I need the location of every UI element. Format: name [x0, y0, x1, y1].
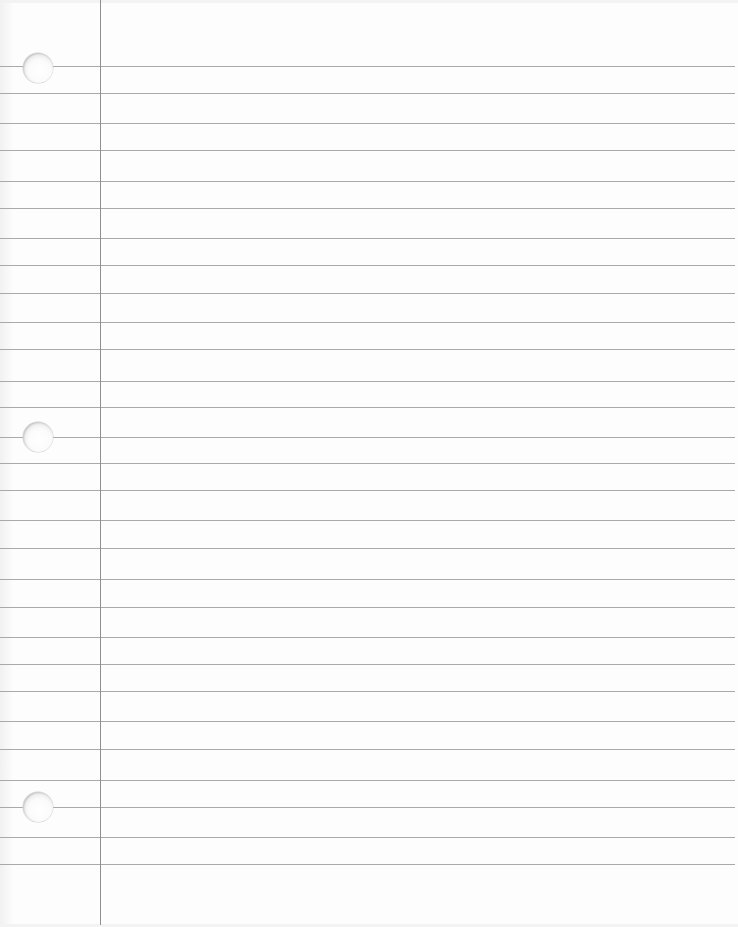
ruled-line: [0, 381, 735, 382]
punch-hole: [23, 792, 53, 822]
punch-hole: [23, 422, 53, 452]
ruled-line: [0, 238, 735, 239]
ruled-line: [0, 691, 735, 692]
ruled-line: [0, 293, 735, 294]
ruled-line: [0, 780, 735, 781]
ruled-line: [0, 208, 735, 209]
ruled-line: [0, 637, 735, 638]
paper-top-edge: [0, 0, 738, 3]
ruled-line: [0, 322, 735, 323]
ruled-line: [0, 837, 735, 838]
ruled-line: [0, 721, 735, 722]
ruled-line: [0, 579, 735, 580]
ruled-line: [0, 123, 735, 124]
ruled-line: [0, 864, 735, 865]
ruled-line: [0, 490, 735, 491]
ruled-line: [0, 150, 735, 151]
ruled-line: [0, 93, 735, 94]
punch-hole: [23, 53, 53, 83]
ruled-line: [0, 407, 735, 408]
ruled-line: [0, 807, 735, 808]
ruled-line: [0, 437, 735, 438]
ruled-line: [0, 265, 735, 266]
margin-line: [100, 0, 101, 925]
ruled-line: [0, 664, 735, 665]
ruled-line: [0, 349, 735, 350]
notebook-paper: [0, 0, 738, 927]
ruled-line: [0, 66, 735, 67]
ruled-line: [0, 607, 735, 608]
ruled-line: [0, 463, 735, 464]
ruled-line: [0, 749, 735, 750]
ruled-line: [0, 181, 735, 182]
ruled-line: [0, 520, 735, 521]
ruled-line: [0, 548, 735, 549]
